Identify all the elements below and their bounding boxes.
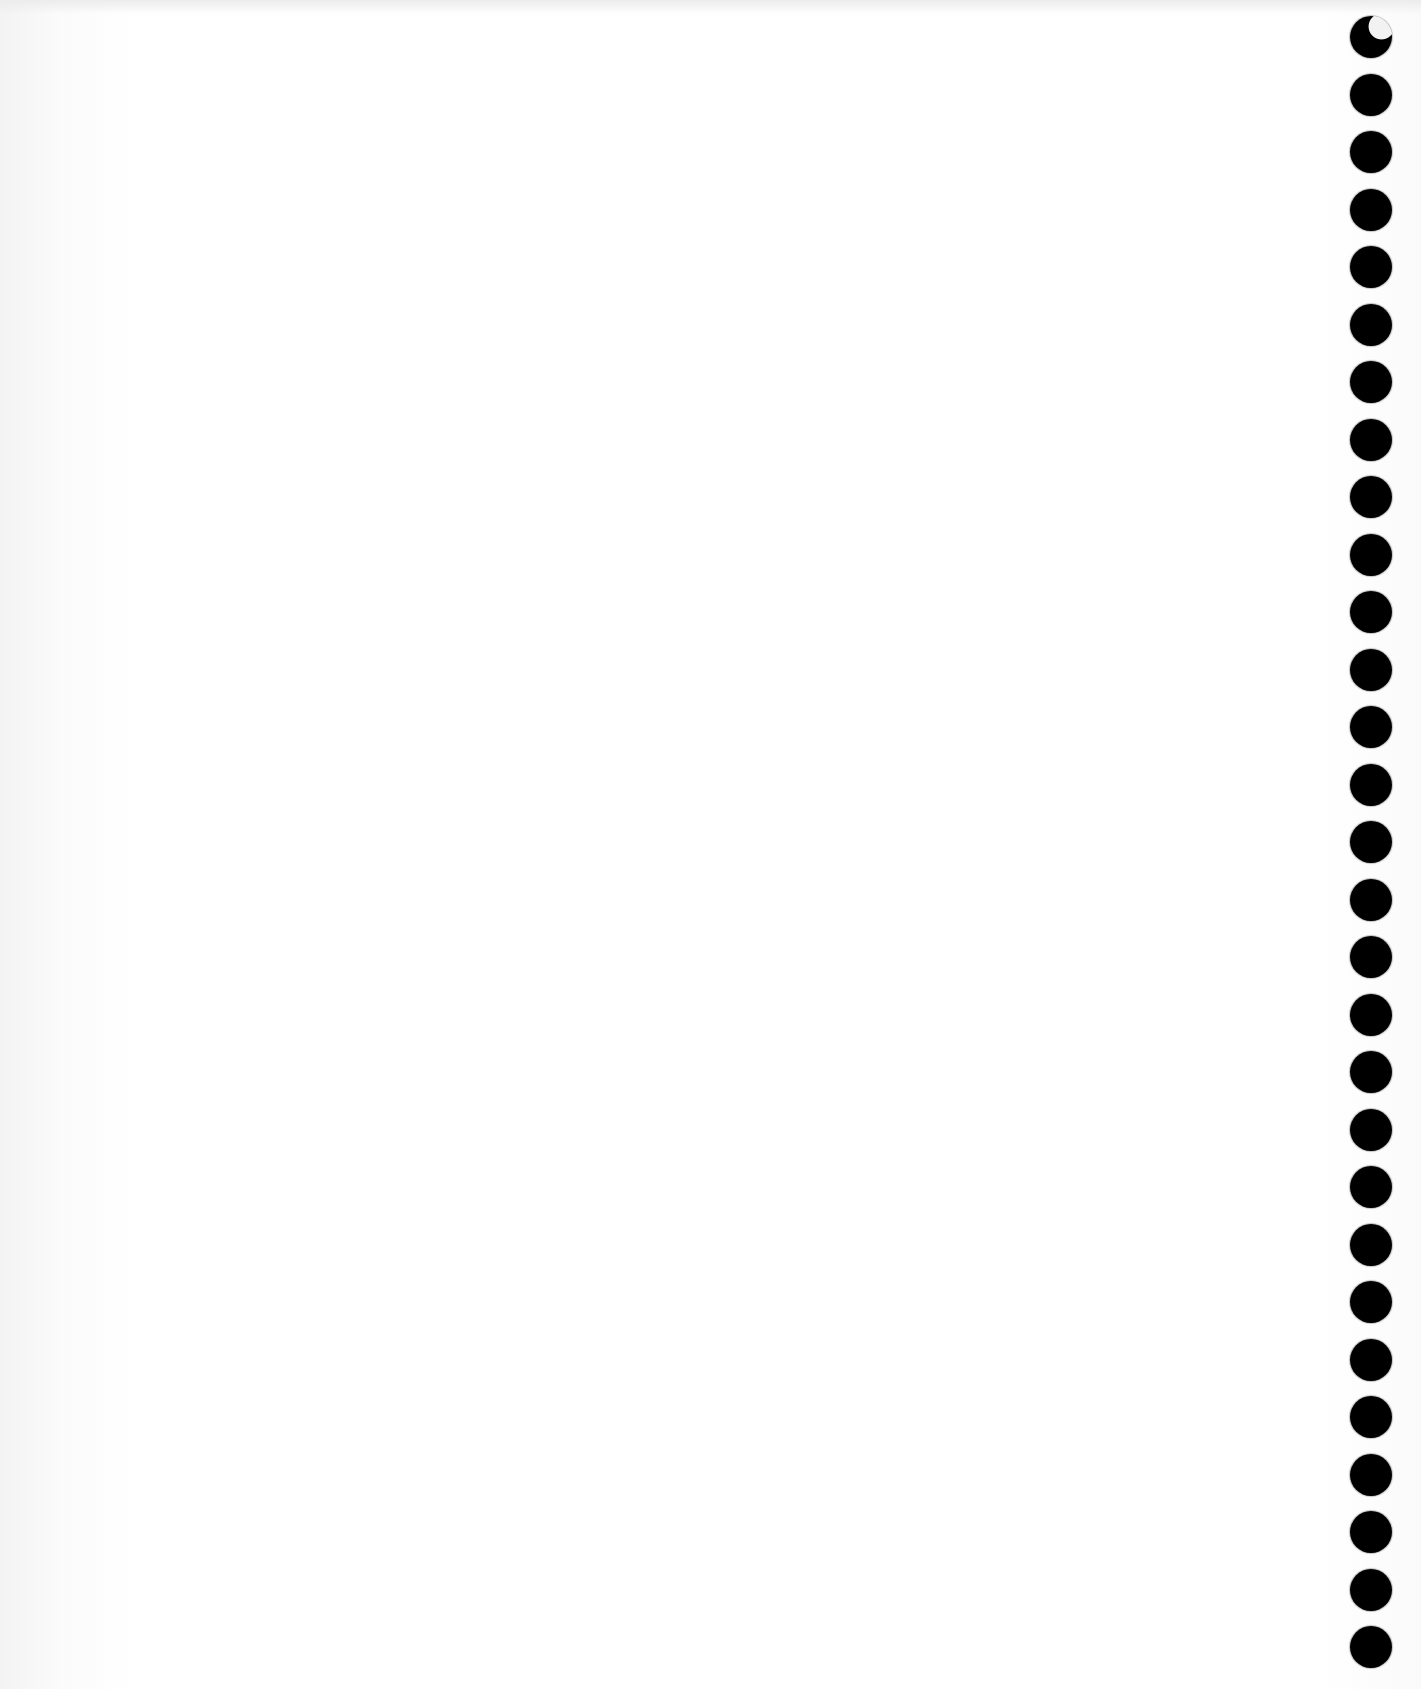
punch-hole-icon	[1350, 1109, 1392, 1151]
punch-hole-strip	[1350, 0, 1394, 1689]
punch-hole-icon	[1350, 16, 1392, 58]
punch-hole-icon	[1350, 1626, 1392, 1668]
punch-hole-icon	[1350, 1281, 1392, 1323]
punch-hole-icon	[1350, 74, 1392, 116]
punch-hole-icon	[1350, 1339, 1392, 1381]
punch-hole-icon	[1350, 534, 1392, 576]
scan-edge-shade	[0, 0, 1421, 14]
punch-hole-icon	[1350, 419, 1392, 461]
punch-hole-icon	[1350, 936, 1392, 978]
punch-hole-icon	[1350, 1569, 1392, 1611]
punch-hole-icon	[1350, 476, 1392, 518]
punch-hole-icon	[1350, 246, 1392, 288]
punch-hole-icon	[1350, 764, 1392, 806]
punch-hole-icon	[1350, 361, 1392, 403]
punch-hole-icon	[1350, 1511, 1392, 1553]
blank-page	[0, 0, 1421, 1689]
punch-hole-icon	[1350, 1051, 1392, 1093]
punch-hole-icon	[1350, 1396, 1392, 1438]
punch-hole-icon	[1350, 821, 1392, 863]
punch-hole-icon	[1350, 649, 1392, 691]
punch-hole-icon	[1350, 994, 1392, 1036]
punch-hole-icon	[1350, 131, 1392, 173]
punch-hole-icon	[1350, 189, 1392, 231]
punch-hole-icon	[1350, 304, 1392, 346]
punch-hole-icon	[1350, 1454, 1392, 1496]
punch-hole-icon	[1350, 706, 1392, 748]
punch-hole-icon	[1350, 879, 1392, 921]
punch-hole-icon	[1350, 1224, 1392, 1266]
punch-hole-icon	[1350, 591, 1392, 633]
punch-hole-icon	[1350, 1166, 1392, 1208]
